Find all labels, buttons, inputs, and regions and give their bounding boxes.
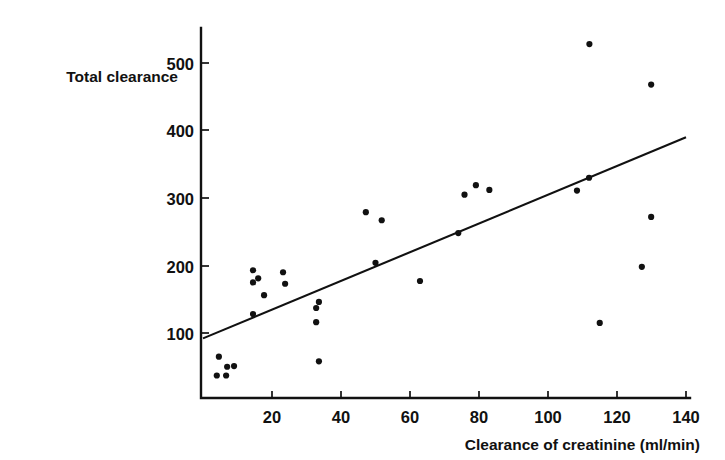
data-point — [250, 267, 256, 273]
x-tick-label: 40 — [332, 408, 350, 426]
x-tick-label: 120 — [603, 408, 631, 426]
data-point — [574, 187, 580, 193]
data-point — [250, 279, 256, 285]
scatter-plot-figure: 500 400 300 200 100 20 40 60 80 100 120 … — [0, 0, 725, 460]
data-point — [223, 372, 229, 378]
data-point — [648, 82, 654, 88]
data-point — [473, 182, 479, 188]
data-point — [313, 305, 319, 311]
data-point — [250, 311, 256, 317]
data-point — [316, 358, 322, 364]
y-tick-label: 400 — [166, 122, 194, 140]
x-tick-label: 20 — [263, 408, 281, 426]
x-tick-label: 140 — [672, 408, 700, 426]
data-point — [280, 269, 286, 275]
data-point — [586, 175, 592, 181]
data-point — [648, 214, 654, 220]
y-axis-title: Total clearance — [66, 68, 178, 85]
x-axis-title: Clearance of creatinine (ml/min) — [465, 436, 700, 453]
data-point — [417, 278, 423, 284]
data-point — [216, 354, 222, 360]
data-point — [261, 292, 267, 298]
x-tick-label: 60 — [401, 408, 419, 426]
y-tick-label: 300 — [166, 190, 194, 208]
data-point — [363, 209, 369, 215]
data-point — [231, 363, 237, 369]
data-point — [379, 217, 385, 223]
data-point — [486, 187, 492, 193]
data-point — [597, 320, 603, 326]
data-point — [461, 192, 467, 198]
data-point — [586, 41, 592, 47]
data-point — [372, 260, 378, 266]
data-point — [282, 281, 288, 287]
x-tick-label: 80 — [470, 408, 488, 426]
data-point — [214, 372, 220, 378]
y-tick-label: 200 — [166, 258, 194, 276]
data-point — [224, 364, 230, 370]
data-point — [639, 264, 645, 270]
data-point — [313, 319, 319, 325]
x-tick-label: 100 — [534, 408, 562, 426]
data-point — [316, 299, 322, 305]
y-tick-label: 100 — [166, 325, 194, 343]
data-point — [455, 230, 461, 236]
data-point — [255, 275, 261, 281]
